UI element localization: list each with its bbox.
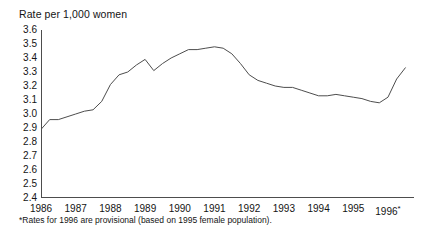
x-axis-labels: 1986198719881989199019911992199319941995… [0,0,422,235]
x-tick-label: 1996* [375,204,400,217]
x-tick-label-text: 1990 [169,203,191,214]
x-tick-asterisk: * [398,204,401,213]
x-tick-label-text: 1993 [273,203,295,214]
x-tick-label-text: 1988 [99,203,121,214]
x-tick-label-text: 1995 [342,203,364,214]
x-tick-label-text: 1996 [375,206,397,217]
x-tick-label-text: 1986 [30,203,52,214]
x-tick-label: 1994 [307,204,329,214]
x-tick-label: 1990 [169,204,191,214]
x-tick-label: 1988 [99,204,121,214]
x-tick-label: 1993 [273,204,295,214]
x-tick-label: 1987 [65,204,87,214]
x-tick-label: 1986 [30,204,52,214]
x-tick-label: 1995 [342,204,364,214]
chart-footnote: *Rates for 1996 are provisional (based o… [19,215,272,225]
x-tick-label-text: 1994 [307,203,329,214]
x-tick-label-text: 1992 [238,203,260,214]
chart-figure: Rate per 1,000 women 3.63.53.43.33.23.13… [0,0,422,235]
x-tick-label-text: 1989 [134,203,156,214]
x-tick-label: 1989 [134,204,156,214]
x-tick-label: 1992 [238,204,260,214]
x-tick-label-text: 1987 [65,203,87,214]
x-tick-label: 1991 [203,204,225,214]
x-tick-label-text: 1991 [203,203,225,214]
